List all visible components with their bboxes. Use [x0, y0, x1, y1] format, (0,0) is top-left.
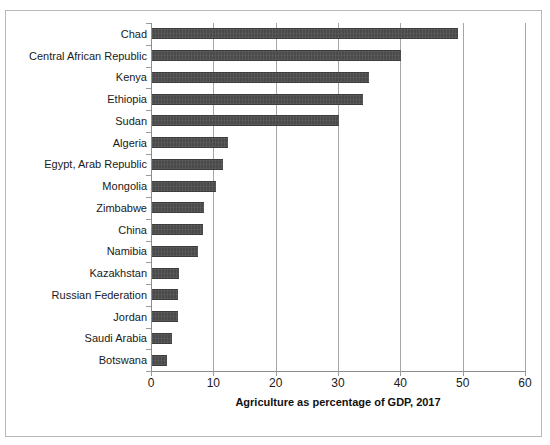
category-label: Russian Federation: [7, 289, 147, 301]
category-label: Mongolia: [7, 180, 147, 192]
category-label: Zimbabwe: [7, 202, 147, 214]
bar: [152, 28, 458, 39]
bar: [152, 333, 172, 344]
bar: [152, 355, 167, 366]
x-tick-label-50: 50: [456, 376, 469, 390]
bar: [152, 181, 216, 192]
y-tick-10: [146, 241, 151, 242]
y-tick-3: [146, 88, 151, 89]
x-tick-label-10: 10: [207, 376, 220, 390]
y-tick-1: [146, 45, 151, 46]
y-tick-5: [146, 132, 151, 133]
category-label: Namibia: [7, 245, 147, 257]
category-label: Chad: [7, 28, 147, 40]
bar: [152, 159, 223, 170]
bar: [152, 72, 369, 83]
y-tick-end: [146, 371, 151, 372]
y-tick-6: [146, 154, 151, 155]
bar: [152, 311, 178, 322]
gridline-x-40: [400, 23, 401, 371]
bar: [152, 246, 198, 257]
x-tick-label-0: 0: [148, 376, 155, 390]
y-tick-8: [146, 197, 151, 198]
bar: [152, 94, 363, 105]
x-axis-title: Agriculture as percentage of GDP, 2017: [151, 396, 525, 408]
category-label: Egypt, Arab Republic: [7, 158, 147, 170]
category-label: Sudan: [7, 115, 147, 127]
bar: [152, 202, 204, 213]
y-tick-12: [146, 284, 151, 285]
category-label: Central African Republic: [7, 50, 147, 62]
bar: [152, 115, 339, 126]
bar: [152, 137, 228, 148]
y-tick-2: [146, 67, 151, 68]
chart-figure: ChadCentral African RepublicKenyaEthiopi…: [5, 10, 542, 437]
bar: [152, 50, 401, 61]
category-label: Ethiopia: [7, 93, 147, 105]
plot-area: 0102030405060: [151, 23, 525, 371]
category-label: Saudi Arabia: [7, 332, 147, 344]
category-axis-labels: ChadCentral African RepublicKenyaEthiopi…: [6, 23, 147, 371]
bar: [152, 268, 179, 279]
y-tick-15: [146, 349, 151, 350]
bar: [152, 224, 203, 235]
category-label: Algeria: [7, 137, 147, 149]
category-label: Kazakhstan: [7, 267, 147, 279]
y-tick-0: [146, 23, 151, 24]
category-label: Jordan: [7, 311, 147, 323]
y-tick-13: [146, 306, 151, 307]
y-tick-14: [146, 328, 151, 329]
bar: [152, 289, 178, 300]
category-label: Kenya: [7, 71, 147, 83]
gridline-x-60: [525, 23, 526, 371]
y-tick-11: [146, 262, 151, 263]
x-tick-label-30: 30: [331, 376, 344, 390]
x-tick-label-40: 40: [394, 376, 407, 390]
y-tick-7: [146, 175, 151, 176]
category-label: Botswana: [7, 354, 147, 366]
gridline-x-50: [463, 23, 464, 371]
y-tick-9: [146, 219, 151, 220]
x-tick-label-60: 60: [518, 376, 531, 390]
x-tick-label-20: 20: [269, 376, 282, 390]
y-tick-4: [146, 110, 151, 111]
category-label: China: [7, 224, 147, 236]
